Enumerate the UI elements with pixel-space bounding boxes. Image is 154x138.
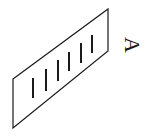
tilted-plane <box>13 9 108 128</box>
grating-diagram <box>0 0 154 138</box>
label-a: A <box>121 34 143 56</box>
